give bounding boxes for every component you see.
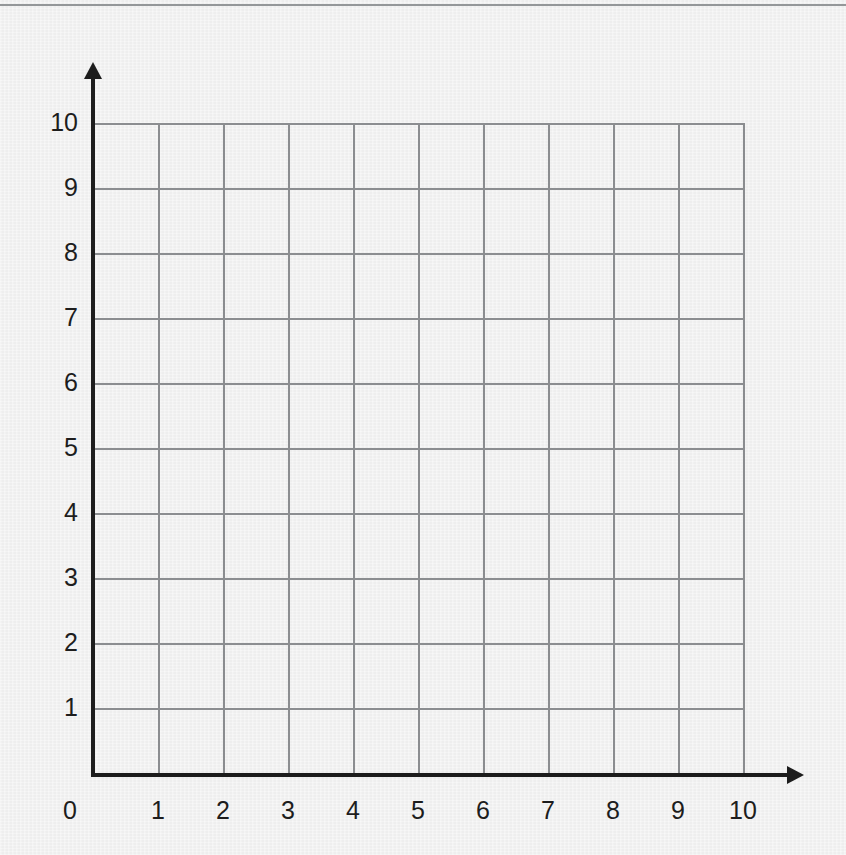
x-axis-line bbox=[91, 773, 791, 777]
gridline-horizontal bbox=[93, 253, 743, 255]
y-tick-label-9: 9 bbox=[18, 175, 78, 200]
x-tick-label-6: 6 bbox=[453, 798, 513, 823]
y-tick-label-3: 3 bbox=[18, 565, 78, 590]
gridline-horizontal bbox=[93, 188, 743, 190]
plot-area: 12345678910 012345678910 bbox=[0, 0, 846, 855]
x-tick-label-5: 5 bbox=[388, 798, 448, 823]
y-tick-label-10: 10 bbox=[18, 110, 78, 135]
gridline-horizontal bbox=[93, 318, 743, 320]
gridline-horizontal bbox=[93, 643, 743, 645]
y-tick-label-1: 1 bbox=[18, 695, 78, 720]
grid-lines bbox=[93, 123, 743, 773]
coordinate-grid-page: 12345678910 012345678910 bbox=[0, 0, 846, 855]
x-tick-label-7: 7 bbox=[518, 798, 578, 823]
y-tick-label-6: 6 bbox=[18, 370, 78, 395]
gridline-horizontal bbox=[93, 383, 743, 385]
x-tick-label-2: 2 bbox=[193, 798, 253, 823]
y-tick-label-8: 8 bbox=[18, 240, 78, 265]
x-tick-label-1: 1 bbox=[128, 798, 188, 823]
gridline-horizontal bbox=[93, 578, 743, 580]
gridline-horizontal bbox=[93, 448, 743, 450]
x-axis-arrow-icon bbox=[787, 766, 804, 784]
x-tick-label-3: 3 bbox=[258, 798, 318, 823]
y-axis-arrow-icon bbox=[84, 62, 102, 79]
x-tick-label-0: 0 bbox=[40, 798, 100, 823]
gridline-horizontal bbox=[93, 123, 743, 125]
y-axis-line bbox=[91, 74, 95, 777]
x-tick-label-8: 8 bbox=[583, 798, 643, 823]
x-tick-label-4: 4 bbox=[323, 798, 383, 823]
gridline-horizontal bbox=[93, 708, 743, 710]
y-tick-label-2: 2 bbox=[18, 630, 78, 655]
gridline-horizontal bbox=[93, 513, 743, 515]
gridline-vertical bbox=[743, 123, 745, 773]
x-tick-label-10: 10 bbox=[713, 798, 773, 823]
x-tick-label-9: 9 bbox=[648, 798, 708, 823]
y-tick-label-4: 4 bbox=[18, 500, 78, 525]
y-tick-label-7: 7 bbox=[18, 305, 78, 330]
y-tick-label-5: 5 bbox=[18, 435, 78, 460]
